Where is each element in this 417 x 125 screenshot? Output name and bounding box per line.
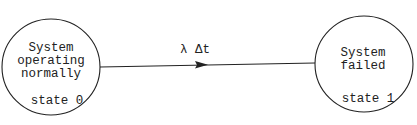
state-0-label: state 0 bbox=[31, 94, 84, 108]
state-0-line-2: operating bbox=[17, 54, 85, 68]
transition-arrow: λ Δt bbox=[100, 43, 315, 69]
diagram-canvas: System operating normally state 0 λ Δt S… bbox=[0, 0, 417, 125]
arrowhead-icon bbox=[195, 61, 208, 69]
state-1-line-1: System bbox=[340, 46, 385, 60]
transition-line bbox=[100, 63, 315, 67]
state-1-label: state 1 bbox=[342, 92, 395, 106]
state-0-node: System operating normally state 0 bbox=[2, 19, 100, 115]
state-1-node: System failed state 1 bbox=[315, 16, 413, 112]
state-0-line-3: normally bbox=[21, 67, 82, 81]
transition-rate-label: λ Δt bbox=[180, 43, 210, 57]
state-0-line-1: System bbox=[28, 41, 73, 55]
state-1-line-2: failed bbox=[340, 59, 385, 73]
markov-state-diagram: System operating normally state 0 λ Δt S… bbox=[0, 0, 417, 125]
